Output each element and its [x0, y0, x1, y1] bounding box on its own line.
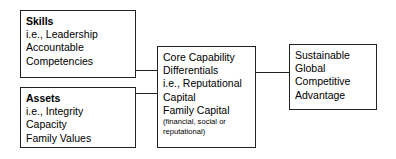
box-core-note-line-1: (financial, social or — [163, 117, 255, 127]
box-core-line-2: Differentials — [163, 64, 255, 77]
box-assets-line-1: i.e., Integrity — [26, 105, 135, 118]
box-core-line-4: Capital — [163, 91, 255, 104]
box-core-capability-differentials: Core Capability Differentials i.e., Repu… — [157, 46, 256, 148]
box-assets: Assets i.e., Integrity Capacity Family V… — [20, 87, 136, 148]
box-skills: Skills i.e., Leadership Accountable Comp… — [20, 10, 136, 78]
connector-core-to-outcome — [256, 72, 290, 73]
box-assets-heading: Assets — [26, 92, 135, 105]
box-core-line-5: Family Capital — [163, 104, 255, 117]
box-skills-line-3: Competencies — [26, 55, 135, 68]
box-sustainable-global-competitive-advantage: Sustainable Global Competitive Advantage — [289, 44, 377, 110]
diagram-canvas: Skills i.e., Leadership Accountable Comp… — [0, 0, 396, 159]
box-assets-line-3: Family Values — [26, 132, 135, 145]
box-outcome-line-3: Competitive — [295, 75, 376, 88]
connector-skills-to-core — [136, 70, 158, 71]
box-outcome-line-2: Global — [295, 62, 376, 75]
box-core-line-3: i.e., Reputational — [163, 77, 255, 90]
connector-assets-to-core — [136, 93, 158, 94]
box-assets-line-2: Capacity — [26, 118, 135, 131]
box-outcome-line-4: Advantage — [295, 89, 376, 102]
box-skills-line-1: i.e., Leadership — [26, 28, 135, 41]
box-outcome-line-1: Sustainable — [295, 49, 376, 62]
box-core-line-1: Core Capability — [163, 51, 255, 64]
box-skills-heading: Skills — [26, 15, 135, 28]
box-core-note-line-2: reputational) — [163, 127, 255, 137]
box-skills-line-2: Accountable — [26, 41, 135, 54]
